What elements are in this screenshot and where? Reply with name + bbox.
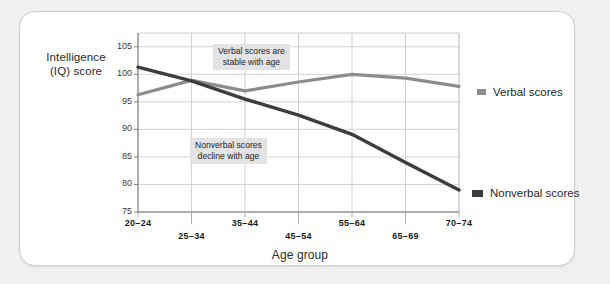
y-tick-label: 100 xyxy=(96,68,132,78)
y-tick-label: 85 xyxy=(96,151,132,161)
y-tick-label: 90 xyxy=(96,123,132,133)
legend-item-verbal-scores[interactable]: Verbal scores xyxy=(477,86,563,98)
x-tick-label: 65–69 xyxy=(382,231,430,241)
annotation-nonverbal-note: Nonverbal scores decline with age xyxy=(190,138,267,164)
line-chart: Intelligence (IQ) score 7580859095100105… xyxy=(0,0,610,284)
legend-label-verbal: Verbal scores xyxy=(493,86,563,98)
legend-item-nonverbal-scores[interactable]: Nonverbal scores xyxy=(472,187,579,199)
y-tick-label: 95 xyxy=(96,96,132,106)
x-axis-ticks xyxy=(138,212,459,224)
gridlines xyxy=(138,33,459,212)
y-tick-label: 80 xyxy=(96,178,132,188)
legend-swatch-icon xyxy=(477,89,486,95)
y-tick-label: 105 xyxy=(96,41,132,51)
x-tick-label: 35–44 xyxy=(221,218,269,228)
figure-page: Intelligence (IQ) score 7580859095100105… xyxy=(0,0,610,284)
x-tick-label: 25–34 xyxy=(168,231,216,241)
x-tick-label: 45–54 xyxy=(275,231,323,241)
plot-canvas xyxy=(0,0,610,284)
legend-label-nonverbal: Nonverbal scores xyxy=(490,187,579,199)
plot-frame xyxy=(134,33,459,213)
annotation-verbal-note: Verbal scores are stable with age xyxy=(213,44,290,70)
x-axis-title: Age group xyxy=(210,248,390,262)
x-tick-label: 20–24 xyxy=(114,218,162,228)
legend-swatch-icon xyxy=(472,190,483,197)
y-tick-label: 75 xyxy=(96,206,132,216)
x-tick-label: 55–64 xyxy=(328,218,376,228)
x-tick-label: 70–74 xyxy=(435,218,483,228)
